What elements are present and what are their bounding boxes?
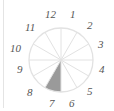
- label-7: 7: [49, 97, 55, 109]
- label-2: 2: [87, 19, 93, 31]
- label-4: 4: [99, 63, 105, 75]
- label-5: 5: [87, 85, 93, 97]
- label-9: 9: [17, 63, 23, 75]
- label-12: 12: [45, 8, 57, 20]
- label-8: 8: [27, 86, 33, 98]
- label-3: 3: [97, 38, 104, 50]
- clock-diagram: 12 1 2 3 4 5 6 7 8 9 10 11: [0, 0, 114, 111]
- label-11: 11: [25, 21, 35, 33]
- label-1: 1: [70, 8, 76, 20]
- label-6: 6: [69, 97, 75, 109]
- label-10: 10: [10, 42, 22, 54]
